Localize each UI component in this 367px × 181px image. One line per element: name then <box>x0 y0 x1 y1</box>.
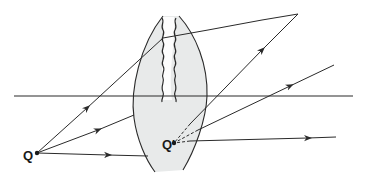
emergent-ray-lower <box>190 137 336 141</box>
incident-ray-lower <box>37 153 148 156</box>
emergent-ray-middle <box>198 65 334 130</box>
object-point-dot <box>35 151 39 155</box>
image-point-label: Q' <box>162 138 175 151</box>
object-point-label: Q <box>23 149 33 162</box>
incident-ray-middle <box>37 115 134 153</box>
lens-diagram <box>0 0 367 181</box>
